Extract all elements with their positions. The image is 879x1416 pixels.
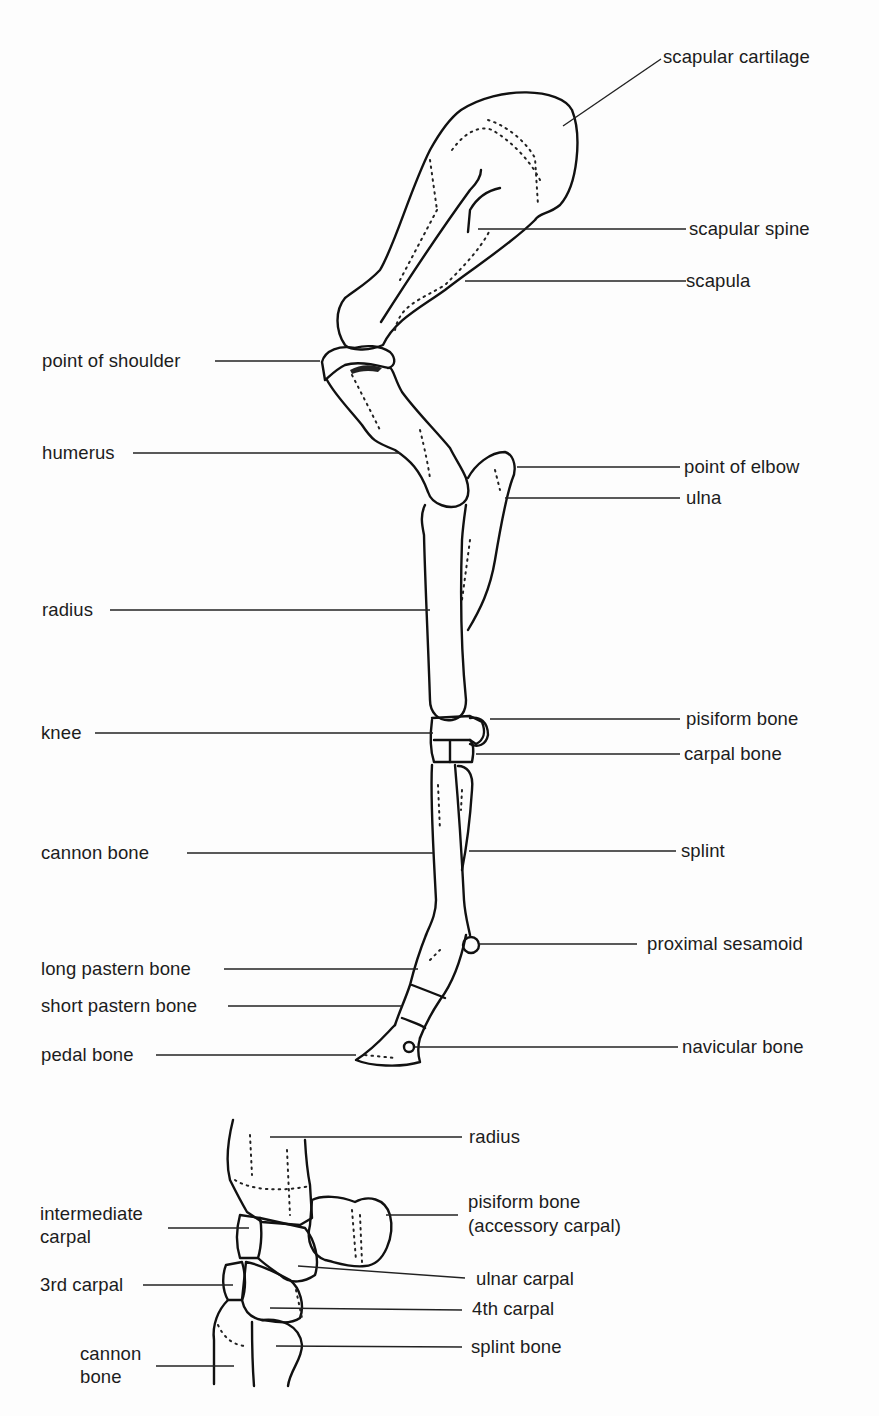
label-detail-intermediate-carpal-line1: intermediate — [40, 1203, 143, 1225]
label-navicular-bone: navicular bone — [682, 1036, 804, 1058]
label-detail-cannon-bone-line1: cannon — [80, 1343, 141, 1365]
label-scapula: scapula — [686, 270, 750, 292]
label-scapular-spine: scapular spine — [689, 218, 810, 240]
horse-forelimb-diagram: scapular cartilage scapular spine scapul… — [0, 0, 879, 1416]
radius-drawing — [422, 505, 466, 720]
label-splint: splint — [681, 840, 725, 862]
cannon-drawing — [426, 765, 472, 935]
label-point-of-shoulder: point of shoulder — [42, 350, 181, 372]
leader-lines-detail — [143, 1137, 465, 1366]
label-detail-splint-bone: splint bone — [471, 1336, 562, 1358]
label-detail-radius: radius — [469, 1126, 520, 1148]
label-pisiform-bone: pisiform bone — [686, 708, 798, 730]
label-long-pastern-bone: long pastern bone — [41, 958, 191, 980]
label-detail-4th-carpal: 4th carpal — [472, 1298, 554, 1320]
scapula-drawing — [338, 92, 578, 349]
label-detail-3rd-carpal: 3rd carpal — [40, 1274, 123, 1296]
label-knee: knee — [41, 722, 82, 744]
label-detail-pisiform-line1: pisiform bone — [468, 1191, 580, 1213]
leader-lines-main — [95, 59, 686, 1055]
label-detail-ulnar-carpal: ulnar carpal — [476, 1268, 574, 1290]
label-radius: radius — [42, 599, 93, 621]
label-carpal-bone: carpal bone — [684, 743, 782, 765]
label-detail-intermediate-carpal-line2: carpal — [40, 1226, 91, 1248]
label-ulna: ulna — [686, 487, 721, 509]
label-detail-pisiform-line2: (accessory carpal) — [468, 1215, 621, 1237]
label-pedal-bone: pedal bone — [41, 1044, 134, 1066]
phalanges-drawing — [356, 935, 479, 1066]
label-humerus: humerus — [42, 442, 115, 464]
knee-drawing — [431, 716, 488, 762]
label-scapular-cartilage: scapular cartilage — [663, 46, 810, 68]
label-point-of-elbow: point of elbow — [684, 456, 800, 478]
label-proximal-sesamoid: proximal sesamoid — [647, 933, 803, 955]
humerus-drawing — [322, 346, 468, 507]
label-short-pastern-bone: short pastern bone — [41, 995, 197, 1017]
label-cannon-bone: cannon bone — [41, 842, 149, 864]
label-detail-cannon-bone-line2: bone — [80, 1366, 122, 1388]
ulna-drawing — [462, 452, 515, 630]
